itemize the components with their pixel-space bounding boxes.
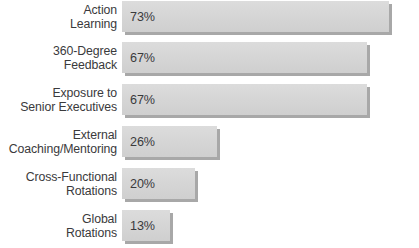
horizontal-bar-chart: Action Learning 73% 360-Degree Feedback …	[0, 0, 419, 248]
bar-container: 13%	[122, 210, 170, 241]
bar-container: 73%	[122, 1, 389, 32]
category-label: Action Learning	[0, 2, 117, 31]
bar[interactable]	[122, 1, 389, 32]
value-label: 67%	[130, 51, 155, 65]
chart-row: 360-Degree Feedback 67%	[0, 42, 419, 73]
value-label: 13%	[130, 219, 155, 233]
bar-container: 26%	[122, 126, 217, 157]
chart-row: Action Learning 73%	[0, 1, 419, 32]
value-label: 73%	[130, 10, 155, 24]
value-label: 20%	[130, 177, 155, 191]
category-label: Global Rotations	[0, 211, 117, 240]
category-label: Exposure to Senior Executives	[0, 85, 117, 114]
category-label: External Coaching/Mentoring	[0, 127, 117, 156]
bar-container: 67%	[122, 84, 367, 115]
chart-row: Cross-Functional Rotations 20%	[0, 168, 419, 199]
category-label: 360-Degree Feedback	[0, 43, 117, 72]
bar[interactable]	[122, 42, 367, 73]
chart-row: Exposure to Senior Executives 67%	[0, 84, 419, 115]
value-label: 67%	[130, 93, 155, 107]
bar-container: 67%	[122, 42, 367, 73]
chart-row: External Coaching/Mentoring 26%	[0, 126, 419, 157]
bar-container: 20%	[122, 168, 195, 199]
value-label: 26%	[130, 135, 155, 149]
chart-row: Global Rotations 13%	[0, 210, 419, 241]
bar[interactable]	[122, 84, 367, 115]
category-label: Cross-Functional Rotations	[0, 169, 117, 198]
